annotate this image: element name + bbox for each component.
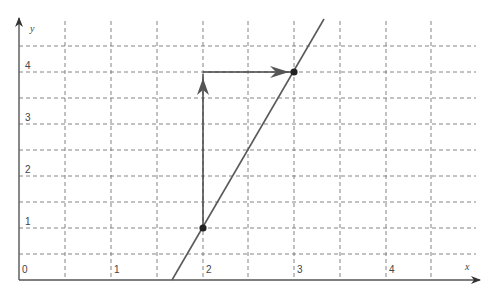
origin-label: 0 (22, 264, 28, 275)
x-tick-1: 1 (114, 264, 120, 275)
x-tick-4: 4 (389, 264, 395, 275)
y-tick-2: 2 (25, 164, 31, 175)
y-tick-1: 1 (25, 216, 31, 227)
y-tick-3: 3 (25, 112, 31, 123)
coordinate-plane: y x 0 1 2 3 4 1 2 3 4 (0, 0, 498, 295)
point-2-1 (199, 224, 206, 231)
x-tick-2: 2 (206, 264, 212, 275)
y-tick-4: 4 (25, 60, 31, 71)
x-tick-3: 3 (297, 264, 303, 275)
point-3-4 (290, 68, 297, 75)
x-axis-label: x (464, 261, 470, 272)
y-axis-label: y (29, 23, 35, 34)
